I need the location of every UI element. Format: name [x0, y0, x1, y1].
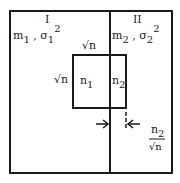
width-arrows [0, 0, 180, 183]
annotation-denominator: √n [149, 142, 162, 152]
annotation-numerator: n2 [151, 124, 164, 135]
